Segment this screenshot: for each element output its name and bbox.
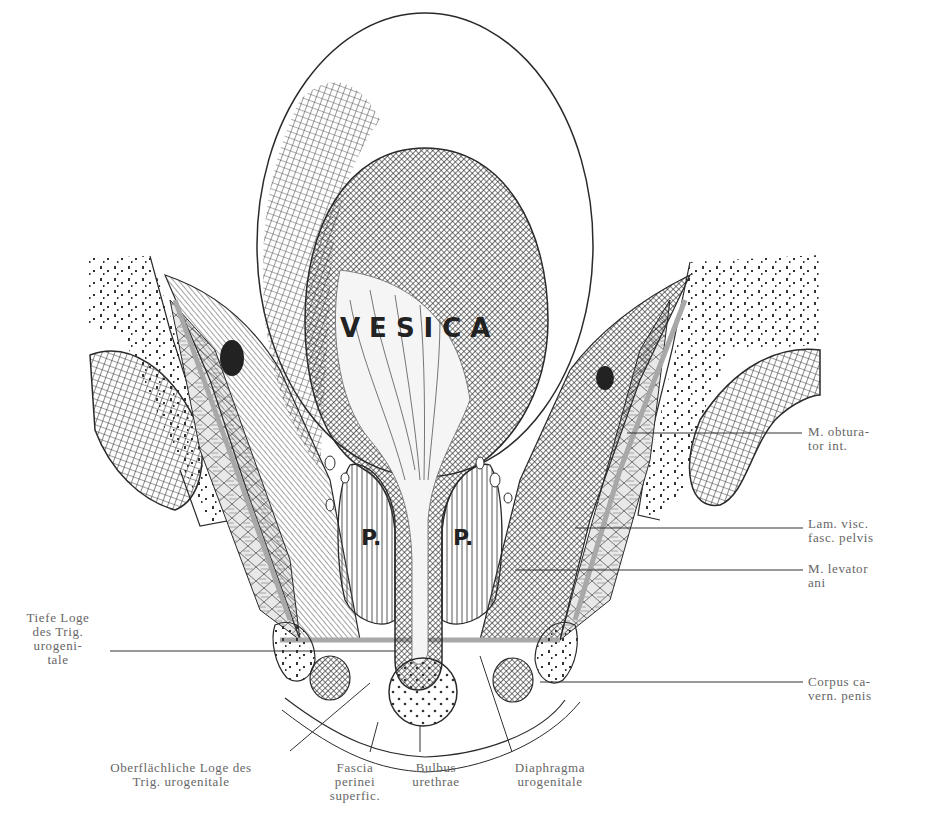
label-prostate-right: P. (453, 525, 473, 550)
corpus-cavernosum-right (493, 658, 533, 702)
label-prostate-left: P. (361, 525, 381, 550)
label-vesica: VESICA (340, 313, 500, 343)
label-fascia-perinei: Fascia perinei superfic. (318, 761, 392, 803)
dark-spot-left (220, 340, 244, 376)
label-tiefe-loge: Tiefe Loge des Trig. urogeni- tale (8, 611, 108, 667)
bulbus-urethrae (389, 658, 457, 726)
label-obturator: M. obtura- tor int. (808, 425, 870, 453)
anatomical-figure: VESICA P. P. (0, 0, 934, 823)
label-corpus-cavern: Corpus ca- vern. penis (808, 675, 872, 703)
label-levator-ani: M. levator ani (808, 562, 868, 590)
dark-spot-right (596, 366, 614, 390)
label-bulbus-urethrae: Bulbus urethrae (398, 761, 474, 789)
corpus-cavernosum-left (310, 656, 350, 700)
label-diaphragma: Diaphragma urogenitale (490, 761, 610, 789)
label-oberflaechliche-loge: Oberflächliche Loge des Trig. urogenital… (76, 761, 286, 789)
label-lam-visc: Lam. visc. fasc. pelvis (808, 517, 874, 545)
